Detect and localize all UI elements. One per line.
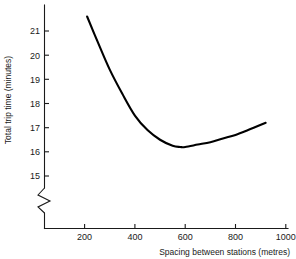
- x-tick-label-200: 200: [77, 232, 92, 242]
- x-tick-label-400: 400: [127, 232, 142, 242]
- y-axis-break-icon: [38, 188, 50, 213]
- x-axis-title: Spacing between stations (metres): [159, 247, 290, 257]
- y-tick-label-15: 15: [30, 171, 40, 181]
- y-tick-label-19: 19: [30, 75, 40, 85]
- y-axis-title: Total trip time (minutes): [3, 56, 13, 144]
- data-series-line: [87, 17, 266, 148]
- y-tick-label-18: 18: [30, 99, 40, 109]
- y-tick-label-17: 17: [30, 123, 40, 133]
- line-chart: 15 16 17 18 19 20 21 200 400 600 800 100…: [0, 0, 296, 259]
- y-tick-label-16: 16: [30, 147, 40, 157]
- chart-container: 15 16 17 18 19 20 21 200 400 600 800 100…: [0, 0, 296, 259]
- x-tick-label-600: 600: [178, 232, 193, 242]
- x-tick-label-1000: 1000: [276, 232, 296, 242]
- y-tick-label-20: 20: [30, 51, 40, 61]
- y-tick-label-21: 21: [30, 26, 40, 36]
- x-tick-label-800: 800: [228, 232, 243, 242]
